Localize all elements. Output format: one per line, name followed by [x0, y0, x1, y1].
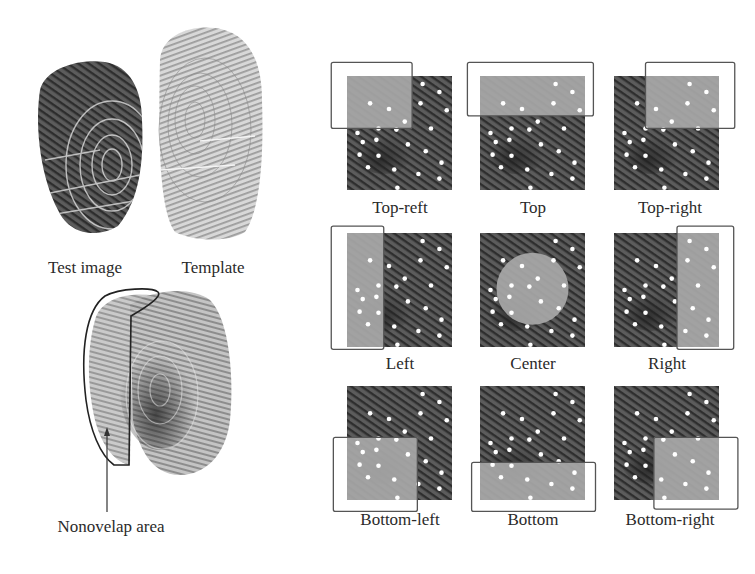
- minutia-dot: [374, 138, 379, 143]
- minutia-dot: [643, 154, 648, 159]
- minutia-dot: [673, 142, 678, 147]
- minutia-dot: [499, 165, 504, 170]
- overlap-region: [497, 253, 569, 325]
- grid-label-top-right: Top-right: [600, 198, 740, 218]
- minutia-dot: [439, 470, 444, 475]
- minutia-dot: [683, 482, 688, 487]
- minutia-dot: [635, 258, 640, 263]
- minutia-dot: [661, 284, 666, 289]
- minutia-dot: [509, 464, 514, 469]
- minutia-dot: [661, 437, 666, 442]
- overlap-region: [472, 462, 596, 511]
- minutia-dot: [562, 126, 567, 131]
- minutia-dot: [687, 82, 692, 87]
- minutia-dot: [641, 138, 646, 143]
- minutia-dot: [357, 309, 362, 314]
- minutia-dot: [368, 258, 373, 263]
- minutia-dot: [704, 247, 709, 252]
- minutia-dot: [527, 284, 532, 289]
- minutia-dot: [387, 417, 392, 422]
- grid-label-bottom: Bottom: [463, 510, 603, 530]
- minutia-dot: [577, 418, 582, 423]
- grid-label-left: Left: [330, 354, 470, 374]
- grid-cell-bottom-left: [333, 386, 452, 511]
- minutia-dot: [570, 486, 575, 491]
- nonoverlap-area-label: Nonovelap area: [36, 517, 186, 537]
- minutia-dot: [549, 329, 554, 334]
- minutia-dot: [418, 258, 423, 263]
- minutia-dot: [622, 441, 627, 446]
- minutia-dot: [395, 342, 400, 347]
- grid-cell-right: [614, 226, 734, 349]
- minutia-dot: [570, 333, 575, 338]
- minutia-dot: [509, 126, 514, 131]
- minutia-dot: [553, 82, 558, 87]
- minutia-dot: [355, 441, 360, 446]
- minutia-dot: [690, 306, 695, 311]
- minutia-dot: [525, 324, 530, 329]
- minutia-dot: [368, 101, 373, 106]
- grid-label-bottom-right: Bottom-right: [595, 510, 745, 530]
- minutia-dot: [520, 264, 525, 269]
- minutia-dot: [437, 400, 442, 405]
- minutia-dot: [711, 265, 716, 270]
- minutia-dot: [509, 154, 514, 159]
- minutia-dot: [437, 247, 442, 252]
- alignment-grid: [331, 62, 738, 511]
- minutia-dot: [643, 311, 648, 316]
- minutia-dot: [402, 429, 407, 434]
- minutia-dot: [420, 392, 425, 397]
- minutia-dot: [673, 452, 678, 457]
- minutia-dot: [570, 176, 575, 181]
- minutia-dot: [437, 486, 442, 491]
- minutia-dot: [704, 486, 709, 491]
- minutia-dot: [376, 464, 381, 469]
- minutia-dot: [570, 400, 575, 405]
- minutia-dot: [439, 317, 444, 322]
- minutia-dot: [488, 131, 493, 136]
- minutia-dot: [535, 276, 540, 281]
- minutia-dot: [423, 149, 428, 154]
- grid-cell-center: [480, 233, 585, 347]
- minutia-dot: [643, 464, 648, 469]
- minutia-dot: [570, 247, 575, 252]
- minutia-dot: [685, 258, 690, 263]
- minutia-dot: [704, 400, 709, 405]
- minutia-dot: [577, 108, 582, 113]
- test-image-label: Test image: [30, 258, 140, 278]
- test-image-fingerprint: [38, 61, 158, 233]
- minutia-dot: [659, 167, 664, 172]
- minutia-dot: [662, 342, 667, 347]
- minutia-dot: [551, 258, 556, 263]
- minutia-dot: [622, 131, 627, 136]
- minutia-dot: [662, 495, 667, 500]
- minutia-dot: [501, 101, 506, 106]
- minutia-dot: [525, 167, 530, 172]
- minutia-dot: [420, 239, 425, 244]
- minutia-dot: [683, 172, 688, 177]
- figure-canvas: [0, 0, 755, 574]
- minutia-dot: [706, 160, 711, 165]
- minutia-dot: [406, 142, 411, 147]
- minutia-dot: [704, 333, 709, 338]
- minutia-dot: [633, 165, 638, 170]
- minutia-dot: [488, 288, 493, 293]
- minutia-dot: [685, 411, 690, 416]
- minutia-dot: [572, 470, 577, 475]
- minutia-dot: [357, 152, 362, 157]
- minutia-dot: [374, 448, 379, 453]
- minutia-dot: [360, 297, 365, 302]
- minutia-dot: [376, 311, 381, 316]
- minutia-dot: [501, 258, 506, 263]
- overlap-region: [467, 62, 593, 116]
- minutia-dot: [416, 329, 421, 334]
- minutia-dot: [395, 495, 400, 500]
- minutia-dot: [444, 265, 449, 270]
- minutia-dot: [622, 288, 627, 293]
- minutia-dot: [690, 459, 695, 464]
- minutia-dot: [711, 418, 716, 423]
- template-label: Template: [158, 258, 268, 278]
- minutia-dot: [509, 283, 514, 288]
- grid-cell-left: [331, 226, 452, 349]
- minutia-dot: [635, 101, 640, 106]
